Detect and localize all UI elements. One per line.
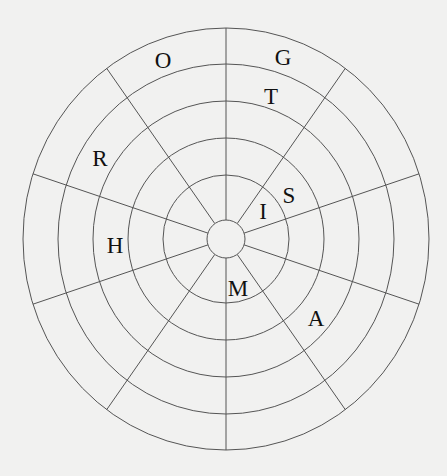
letter-h: H — [107, 233, 124, 258]
letter-g: G — [275, 45, 292, 70]
center-hub-circle — [207, 220, 245, 258]
spoke-4 — [244, 245, 419, 304]
letter-r: R — [92, 146, 108, 171]
spoke-7 — [107, 254, 215, 409]
spoke-10 — [107, 68, 215, 223]
letter-s: S — [283, 183, 296, 208]
letter-m: M — [228, 276, 248, 301]
letter-t: T — [264, 84, 278, 109]
spoke-5 — [237, 254, 345, 409]
spoke-3 — [244, 174, 419, 233]
letter-a: A — [308, 306, 325, 331]
polar-letter-diagram: O G T R S I H M A — [0, 0, 447, 476]
concentric-ring-grid: O G T R S I H M A — [0, 0, 447, 476]
spoke-9 — [33, 174, 208, 233]
letter-i: I — [259, 199, 267, 224]
letters: O G T R S I H M A — [92, 45, 324, 331]
letter-o: O — [155, 48, 172, 73]
